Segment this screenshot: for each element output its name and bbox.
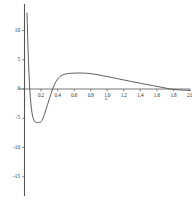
x-tick-label: 0.2	[38, 93, 44, 98]
x-tick-label: 1.8	[170, 93, 176, 98]
x-tick-label: 1.4	[137, 93, 143, 98]
x-axis-title: x	[105, 96, 107, 101]
x-tick-label: 0.4	[55, 93, 61, 98]
x-tick-label: 2.0	[187, 93, 192, 98]
y-tick-label: 5	[6, 57, 20, 62]
y-tick-label: -5	[6, 116, 20, 121]
figure-container: 0.20.40.60.81.01.21.41.61.82.0 1050-5-10…	[0, 0, 192, 211]
y-tick-label: 0	[6, 86, 20, 91]
x-tick-label: 0.6	[71, 93, 77, 98]
plot-canvas	[0, 0, 192, 211]
x-tick-label: 1.6	[154, 93, 160, 98]
y-tick-label: -15	[6, 174, 20, 179]
x-tick-label: 1.2	[121, 93, 127, 98]
data-curve	[27, 13, 190, 123]
y-tick-label: -10	[6, 145, 20, 150]
y-tick-label: 10	[6, 28, 20, 33]
x-tick-label: 0.8	[88, 93, 94, 98]
